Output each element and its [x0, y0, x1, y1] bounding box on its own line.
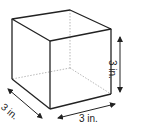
height-label: 3 in.: [107, 60, 118, 79]
width-label: 3 in.: [79, 113, 98, 124]
visible-edges: [12, 10, 111, 109]
cube-diagram: [0, 0, 143, 128]
